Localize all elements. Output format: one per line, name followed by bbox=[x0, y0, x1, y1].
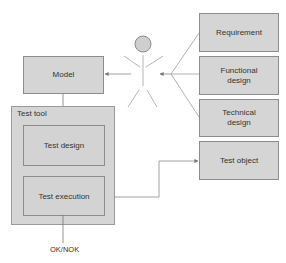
actor-left-leg bbox=[128, 90, 139, 107]
test-object-label: Test object bbox=[220, 156, 258, 166]
actor-right-leg bbox=[147, 90, 157, 107]
requirement-box: Requirement bbox=[199, 13, 279, 52]
requirement-connector bbox=[171, 33, 199, 74]
actor-icon bbox=[124, 36, 163, 107]
functional-design-label: Functional design bbox=[218, 66, 260, 86]
test-design-box: Test design bbox=[23, 125, 105, 166]
model-box: Model bbox=[23, 56, 104, 94]
actor-head bbox=[135, 36, 151, 52]
actor-left-arm bbox=[124, 56, 140, 67]
technical-design-box: Technical design bbox=[199, 99, 279, 137]
test-tool-label: Test tool bbox=[17, 109, 47, 118]
test-object-box: Test object bbox=[199, 141, 279, 180]
technical-design-label: Technical design bbox=[218, 108, 260, 128]
execution-object-connector bbox=[159, 161, 198, 197]
output-label: OK/NOK bbox=[50, 245, 79, 254]
test-design-label: Test design bbox=[44, 141, 84, 150]
actor-right-arm bbox=[146, 56, 163, 67]
requirement-label: Requirement bbox=[216, 28, 262, 38]
test-execution-label: Test execution bbox=[38, 192, 89, 201]
test-execution-box: Test execution bbox=[23, 176, 105, 216]
model-label: Model bbox=[53, 70, 75, 80]
technical-design-connector bbox=[171, 74, 199, 117]
test-tool-container: Test tool Test design Test execution bbox=[11, 106, 115, 225]
functional-design-box: Functional design bbox=[199, 56, 279, 95]
